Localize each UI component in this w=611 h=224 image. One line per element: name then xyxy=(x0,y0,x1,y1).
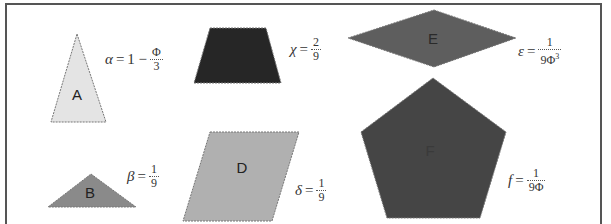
formula-f: f = 1 9Φ xyxy=(508,167,545,194)
fraction-numerator: 1 xyxy=(316,177,326,190)
shape-a-triangle: A xyxy=(51,34,106,122)
formula-variable: β xyxy=(127,168,134,185)
shape-f-label: F xyxy=(425,142,434,159)
formula-chi: χ = 2 9 xyxy=(290,36,321,63)
formula-beta: β = 1 9 xyxy=(127,163,159,190)
formula-variable: f xyxy=(508,172,512,189)
formula-equals: = xyxy=(116,51,124,68)
shape-a-label: A xyxy=(72,86,82,103)
denominator-exponent: 3 xyxy=(555,52,559,61)
formula-fraction: 1 9 xyxy=(316,177,326,204)
formula-equals: = xyxy=(137,168,145,185)
fraction-denominator: 9Φ3 xyxy=(538,50,561,67)
formula-equals: = xyxy=(527,43,535,60)
shape-b-triangle: B xyxy=(48,174,136,207)
formula-equals: = xyxy=(515,172,523,189)
formula-fraction: Φ 3 xyxy=(150,46,163,73)
formula-fraction: 1 9 xyxy=(149,163,159,190)
formula-fraction: 2 9 xyxy=(311,36,321,63)
formula-alpha: α = 1 − Φ 3 xyxy=(105,46,163,73)
formula-variable: χ xyxy=(290,41,297,58)
fraction-numerator: 1 xyxy=(545,36,555,49)
formula-variable: δ xyxy=(295,182,302,199)
formula-fraction: 1 9Φ3 xyxy=(538,36,561,67)
shape-c-trapezoid xyxy=(194,28,281,83)
fraction-denominator: 9 xyxy=(311,50,321,63)
shape-d-parallelogram: D xyxy=(183,132,299,221)
fraction-numerator: 2 xyxy=(311,36,321,49)
formula-prefix: 1 − xyxy=(127,51,147,68)
fraction-denominator: 9 xyxy=(149,177,159,190)
shape-e-rhombus: E xyxy=(348,10,516,67)
fraction-denominator: 9 xyxy=(316,191,326,204)
shape-e-label: E xyxy=(428,30,438,47)
shape-d-label: D xyxy=(237,159,248,176)
shape-b-label: B xyxy=(85,184,95,201)
formula-variable: α xyxy=(105,51,113,68)
formula-delta: δ = 1 9 xyxy=(295,177,326,204)
formula-equals: = xyxy=(305,182,313,199)
fraction-numerator: 1 xyxy=(531,167,541,180)
fraction-denominator: 9Φ xyxy=(527,181,546,194)
formula-variable: ε xyxy=(518,43,524,60)
fraction-denominator: 3 xyxy=(151,60,161,73)
shape-f-pentagon: F xyxy=(361,78,506,218)
fraction-numerator: Φ xyxy=(150,46,163,59)
denominator-base: 9Φ xyxy=(540,53,555,67)
formula-epsilon: ε = 1 9Φ3 xyxy=(518,36,561,67)
formula-fraction: 1 9Φ xyxy=(527,167,546,194)
formula-equals: = xyxy=(300,41,308,58)
fraction-numerator: 1 xyxy=(149,163,159,176)
